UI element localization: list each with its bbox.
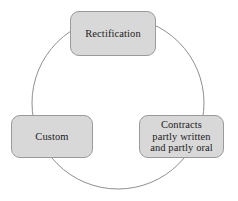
node-rectification[interactable]: Rectification — [70, 11, 156, 56]
node-contracts[interactable]: Contracts partly written and partly oral — [139, 115, 224, 158]
node-custom[interactable]: Custom — [11, 115, 93, 158]
node-rectification-label: Rectification — [81, 28, 145, 40]
node-custom-label: Custom — [31, 131, 72, 143]
cycle-diagram: Rectification Custom Contracts partly wr… — [0, 0, 238, 201]
node-contracts-label: Contracts partly written and partly oral — [146, 119, 217, 154]
